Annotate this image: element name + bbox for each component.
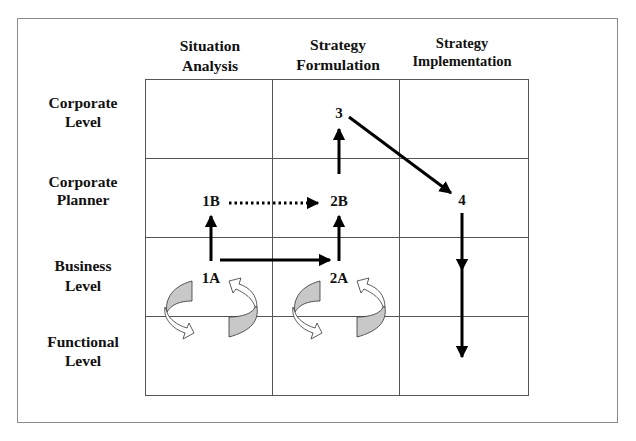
row-label-line: Level bbox=[65, 113, 102, 130]
row-label-business-level: Business Level bbox=[55, 257, 112, 294]
node-2A: 2A bbox=[330, 270, 349, 286]
row-label-functional-level: Functional Level bbox=[47, 333, 119, 369]
node-1A: 1A bbox=[202, 270, 221, 286]
column-header-line: Formulation bbox=[296, 56, 380, 73]
node-2B: 2B bbox=[330, 193, 348, 209]
cycle-arrows-icon bbox=[165, 278, 258, 339]
node-4: 4 bbox=[458, 192, 466, 208]
cycle-arrows-icon bbox=[293, 278, 386, 339]
row-label-line: Corporate bbox=[49, 94, 118, 111]
column-header-situation-analysis: Situation Analysis bbox=[180, 37, 241, 74]
node-3: 3 bbox=[335, 105, 343, 121]
column-header-line: Situation bbox=[180, 37, 241, 54]
matrix-grid bbox=[146, 80, 529, 396]
column-header-strategy-formulation: Strategy Formulation bbox=[296, 36, 380, 73]
row-label-line: Planner bbox=[57, 191, 110, 208]
row-label-line: Business bbox=[55, 257, 112, 274]
row-label-line: Level bbox=[65, 277, 102, 294]
strategy-matrix-diagram: Situation Analysis Strategy Formulation … bbox=[0, 0, 636, 441]
column-header-line: Strategy bbox=[436, 35, 489, 51]
column-header-strategy-implementation: Strategy Implementation bbox=[412, 35, 511, 69]
row-label-line: Corporate bbox=[49, 173, 118, 190]
diagram-canvas: Situation Analysis Strategy Formulation … bbox=[0, 0, 636, 441]
row-label-corporate-planner: Corporate Planner bbox=[49, 173, 118, 208]
column-header-line: Implementation bbox=[412, 53, 511, 69]
node-1B: 1B bbox=[202, 193, 220, 209]
row-label-line: Functional bbox=[47, 333, 119, 350]
column-header-line: Strategy bbox=[310, 36, 366, 53]
row-label-corporate-level: Corporate Level bbox=[49, 94, 118, 130]
column-header-line: Analysis bbox=[182, 57, 238, 74]
row-label-line: Level bbox=[65, 352, 102, 369]
